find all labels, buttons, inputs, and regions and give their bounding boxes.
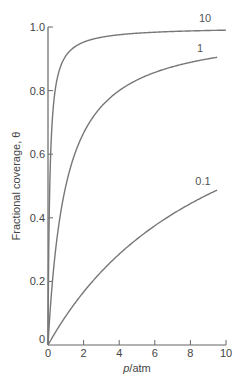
curve-label: 10 <box>199 12 211 24</box>
x-tick-label: 2 <box>81 347 87 359</box>
x-tick-label: 0 <box>45 347 51 359</box>
y-tick-label: 0 <box>39 333 45 345</box>
y-axis-label: Fractional coverage, θ <box>10 132 22 241</box>
y-tick-label: 1.0 <box>30 21 45 33</box>
chart: 024681000.20.40.60.81.0p/atmFractional c… <box>0 0 247 388</box>
curve-label: 1 <box>197 42 203 54</box>
y-tick-label: 0.2 <box>30 275 45 287</box>
labels: 024681000.20.40.60.81.0p/atmFractional c… <box>10 12 232 374</box>
x-tick-label: 10 <box>220 347 232 359</box>
y-tick-label: 0.6 <box>30 148 45 160</box>
x-tick-label: 6 <box>152 347 158 359</box>
x-tick-label: 8 <box>187 347 193 359</box>
curve-K-0.1 <box>48 190 217 345</box>
y-tick-label: 0.8 <box>30 85 45 97</box>
x-tick-label: 4 <box>116 347 122 359</box>
x-axis-label: p/atm <box>122 362 151 374</box>
curve-K-10 <box>48 30 226 345</box>
y-tick-label: 0.4 <box>30 212 45 224</box>
curve-K-1 <box>48 57 217 345</box>
curves <box>48 30 226 345</box>
curve-label: 0.1 <box>195 175 210 187</box>
